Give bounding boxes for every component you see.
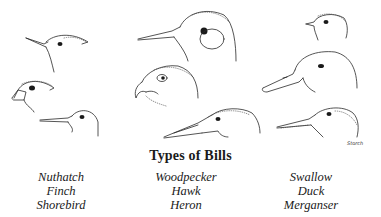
label-nuthatch: Nuthatch (1, 170, 121, 184)
label-swallow: Swallow (251, 170, 371, 184)
label-column-3: Swallow Duck Merganser (251, 170, 371, 212)
label-shorebird: Shorebird (1, 198, 121, 212)
shorebird-head-drawing (38, 106, 100, 142)
label-duck: Duck (251, 184, 371, 198)
label-finch: Finch (1, 184, 121, 198)
heron-head-drawing (162, 105, 262, 141)
label-column-2: Woodpecker Hawk Heron (126, 170, 246, 212)
label-woodpecker: Woodpecker (126, 170, 246, 184)
label-hawk: Hawk (126, 184, 246, 198)
merganser-head-drawing (273, 105, 361, 141)
label-merganser: Merganser (251, 198, 371, 212)
swallow-head-drawing (304, 12, 350, 44)
nuthatch-head-drawing (24, 30, 94, 75)
label-heron: Heron (126, 198, 246, 212)
duck-head-drawing (259, 48, 359, 102)
label-column-1: Nuthatch Finch Shorebird (1, 170, 121, 212)
woodpecker-head-drawing (136, 5, 236, 65)
artist-signature: Storch (347, 140, 363, 146)
figure-title: Types of Bills (0, 148, 381, 164)
